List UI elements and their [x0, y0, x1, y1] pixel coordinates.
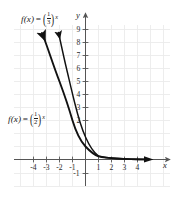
y-tick-label-5: 5 [74, 78, 83, 86]
curve-label-one-half-exponent: x [42, 113, 45, 120]
y-axis-label: y [76, 11, 80, 20]
y-tick-label-7: 7 [74, 52, 83, 60]
y-tick-label-8: 8 [74, 39, 83, 47]
curve-label-one-third-equals: = [36, 14, 41, 24]
x-axis-label: x [163, 161, 167, 170]
asymptote-arrowhead [144, 156, 154, 162]
y-tick-label-3: 3 [74, 104, 83, 112]
curve-label-one-third-exponent: x [55, 13, 58, 20]
curve-label-one-half-equals: = [23, 114, 28, 124]
curve-label-one-third-fn: f(x) [21, 14, 34, 24]
grid-lines [14, 25, 170, 187]
curve-label-one-half: f(x)=(12)x [8, 111, 45, 126]
x-tick-label-minus-1: -1 [66, 164, 79, 172]
curve-label-one-half-fn: f(x) [8, 114, 21, 124]
x-tick-label-minus-4: -4 [27, 164, 40, 172]
y-tick-label-9: 9 [74, 26, 83, 34]
x-tick-label-2: 2 [107, 164, 116, 172]
x-tick-label-minus-2: -2 [53, 164, 66, 172]
curve-label-one-third: f(x)=(13)x [21, 11, 58, 26]
x-tick-label-minus-3: -3 [40, 164, 53, 172]
curve-third-power-x [59, 33, 149, 160]
exponential-decay-figure: f(x)=(13)x f(x)=(12)x y x 9 8 7 6 5 4 3 … [0, 0, 176, 200]
curve-half-power-x [42, 33, 148, 159]
x-tick-label-1: 1 [94, 164, 103, 172]
x-tick-label-4: 4 [133, 164, 142, 172]
y-tick-label-4: 4 [74, 91, 83, 99]
x-tick-label-3: 3 [120, 164, 129, 172]
y-tick-label-2: 2 [74, 117, 83, 125]
y-tick-label-6: 6 [74, 65, 83, 73]
